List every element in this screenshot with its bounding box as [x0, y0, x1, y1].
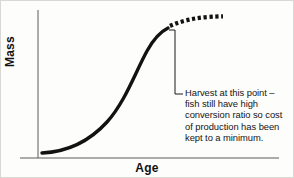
annotation-line-4: of production has been: [185, 121, 289, 132]
growth-curve-figure: Mass Age Harvest at this point – fish st…: [0, 0, 294, 178]
y-axis-label: Mass: [3, 53, 17, 67]
annotation-line-3: conversion ratio so cost: [185, 109, 289, 120]
annotation-line-5: kept to a minimum.: [185, 132, 289, 143]
annotation-leader-line: [169, 30, 183, 94]
harvest-annotation: Harvest at this point – fish still have …: [185, 87, 289, 143]
annotation-line-2: fish still have high: [185, 98, 289, 109]
x-axis-label: Age: [1, 161, 293, 175]
growth-curve-solid: [42, 28, 168, 153]
annotation-line-1: Harvest at this point –: [185, 87, 289, 98]
growth-curve-dotted: [170, 16, 223, 26]
